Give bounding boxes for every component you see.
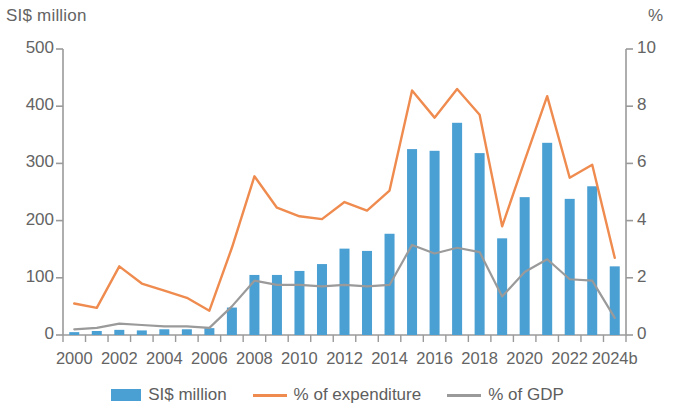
bar-2019[interactable] xyxy=(497,238,507,335)
bar-2005[interactable] xyxy=(182,329,192,335)
bar-2024b[interactable] xyxy=(610,266,620,335)
legend-label: % of expenditure xyxy=(294,385,422,405)
bar-2017[interactable] xyxy=(452,123,462,335)
legend-label: % of GDP xyxy=(488,385,564,405)
bar-2018[interactable] xyxy=(475,153,485,335)
bar-2010[interactable] xyxy=(294,271,304,335)
bar-2012[interactable] xyxy=(340,249,350,335)
bar-2016[interactable] xyxy=(430,151,440,335)
bar-2004[interactable] xyxy=(159,329,169,335)
bar-2015[interactable] xyxy=(407,149,417,335)
legend-item--of-expenditure[interactable]: % of expenditure xyxy=(253,385,422,405)
legend-label: SI$ million xyxy=(148,385,226,405)
bar-2022[interactable] xyxy=(565,199,575,335)
bar-2011[interactable] xyxy=(317,264,327,335)
legend-line-swatch-icon xyxy=(447,394,481,397)
bar-2002[interactable] xyxy=(114,330,124,335)
bar-2023[interactable] xyxy=(587,186,597,335)
bar-2006[interactable] xyxy=(204,328,214,335)
legend-bar-swatch-icon xyxy=(111,389,141,401)
bar-2001[interactable] xyxy=(92,331,102,335)
chart-legend: SI$ million% of expenditure% of GDP xyxy=(0,385,675,405)
legend-line-swatch-icon xyxy=(253,394,287,397)
bar-2000[interactable] xyxy=(69,332,79,335)
bar-2003[interactable] xyxy=(137,330,147,335)
legend-item-si-million[interactable]: SI$ million xyxy=(111,385,226,405)
chart-container: SI$ million % 0100200300400500 0246810 2… xyxy=(0,0,675,417)
legend-item--of-gdp[interactable]: % of GDP xyxy=(447,385,564,405)
plot-area xyxy=(0,0,675,417)
bar-2007[interactable] xyxy=(227,308,237,335)
bar-2020[interactable] xyxy=(520,197,530,335)
bar-2013[interactable] xyxy=(362,251,372,335)
bar-2021[interactable] xyxy=(542,143,552,335)
